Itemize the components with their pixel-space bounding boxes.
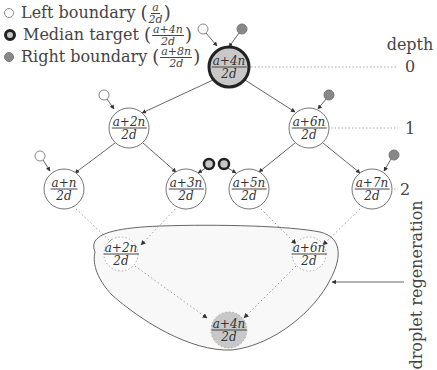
left-boundary-dot	[35, 151, 45, 161]
right-boundary-dot	[237, 24, 247, 34]
legend: Left boundary (a2d) Median target (a+4n2…	[4, 2, 200, 68]
depth-level-2: 2	[400, 180, 410, 199]
node-l2-c-label: a+5n2d	[232, 177, 267, 202]
regen-node-c-label: a+4n2d	[212, 318, 247, 343]
depth-level-1: 1	[405, 119, 415, 138]
depth-level-0: 0	[405, 57, 415, 76]
median-target-dot	[204, 159, 214, 169]
node-l1-a-label: a+2n2d	[112, 116, 147, 141]
node-l2-d-label: a+7n2d	[355, 177, 390, 202]
edge-l1a-l2b	[143, 143, 176, 172]
regen-node-b-label: a+6n2d	[292, 242, 327, 267]
droplet-regeneration-label: droplet regeneration	[407, 200, 426, 369]
right-boundary-dot	[389, 150, 399, 160]
edge-l1b-l2c	[259, 143, 295, 172]
node-l2-a-label: a+n2d	[51, 177, 78, 202]
median-target-icon	[4, 29, 16, 41]
right-boundary-dot	[324, 90, 334, 100]
edge-root-l1a	[142, 80, 213, 113]
depth-title: depth	[387, 35, 434, 54]
node-l1-b-label: a+6n2d	[292, 116, 327, 141]
median-target-dot	[219, 159, 229, 169]
right-boundary-icon	[4, 52, 14, 62]
left-boundary-icon	[4, 8, 14, 18]
edge-l1a-l2a	[75, 143, 115, 173]
edge-root-l1b	[245, 80, 295, 112]
root-node-label: a+4n2d	[212, 55, 247, 80]
regen-node-a-label: a+2n2d	[104, 242, 139, 267]
legend-item-left: Left boundary (a2d)	[4, 2, 200, 24]
left-boundary-dot	[99, 90, 109, 100]
legend-item-right: Right boundary (a+8n2d)	[4, 46, 200, 68]
node-l2-b-label: a+3n2d	[169, 177, 204, 202]
legend-item-median: Median target (a+4n2d)	[4, 24, 200, 46]
edge-l1b-l2d	[323, 143, 360, 173]
